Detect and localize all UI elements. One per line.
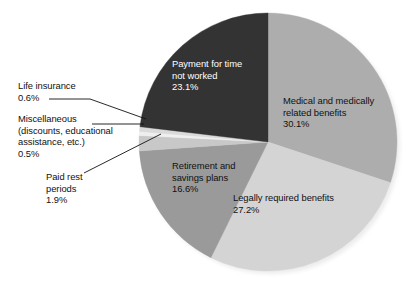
callout-label-life-insurance: Life insurance 0.6%: [18, 80, 76, 103]
callout-label-paid-rest-periods: Paid rest periods 1.9%: [46, 171, 83, 206]
slice-label-payment-for-time-not-worked: Payment for time not worked 23.1%: [172, 58, 242, 93]
pie-chart-figure: Life insurance 0.6% Miscellaneous (disco…: [0, 0, 413, 282]
pie-slices-group: [139, 13, 397, 271]
slice-label-medical-and-medically-related-benefits: Medical and medically related benefits 3…: [283, 95, 374, 130]
callout-label-miscellaneous: Miscellaneous (discounts, educational as…: [18, 113, 113, 159]
slice-label-retirement-and-savings-plans: Retirement and savings plans 16.6%: [172, 160, 235, 195]
slice-label-legally-required-benefits: Legally required benefits 27.2%: [233, 192, 334, 215]
